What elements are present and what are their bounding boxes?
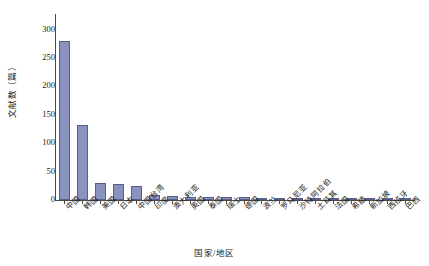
bar-slot — [360, 24, 378, 200]
bar-slot — [378, 24, 396, 200]
bar-chart: 文献数（篇） 050100150200250300 中国韩国美国日本中国台湾印度… — [0, 0, 429, 266]
y-tick-label: 0 — [15, 194, 55, 204]
bar-slot — [56, 24, 74, 200]
bar-slot — [128, 24, 146, 200]
bar-slot — [271, 24, 289, 200]
y-tick-label: 300 — [15, 24, 55, 34]
bar-slot — [396, 24, 414, 200]
y-tick-label: 200 — [15, 80, 55, 90]
bar — [59, 41, 70, 200]
bar-slot — [92, 24, 110, 200]
bar-slot — [110, 24, 128, 200]
bar-slot — [307, 24, 325, 200]
bar-slot — [163, 24, 181, 200]
bar-slot — [181, 24, 199, 200]
bar-slot — [235, 24, 253, 200]
bar-slot — [325, 24, 343, 200]
y-tick-label: 100 — [15, 137, 55, 147]
plot-area — [56, 24, 414, 200]
bar-series — [56, 24, 414, 200]
bar-slot — [199, 24, 217, 200]
bar-slot — [74, 24, 92, 200]
y-tick-label: 150 — [15, 109, 55, 119]
y-axis-ticks: 050100150200250300 — [0, 0, 55, 266]
x-axis-title: 国家/地区 — [0, 246, 429, 258]
bar-slot — [253, 24, 271, 200]
bar-slot — [146, 24, 164, 200]
bar-slot — [217, 24, 235, 200]
bar-slot — [343, 24, 361, 200]
bar-slot — [289, 24, 307, 200]
bar — [77, 125, 88, 200]
y-tick-label: 250 — [15, 52, 55, 62]
y-tick-label: 50 — [15, 166, 55, 176]
